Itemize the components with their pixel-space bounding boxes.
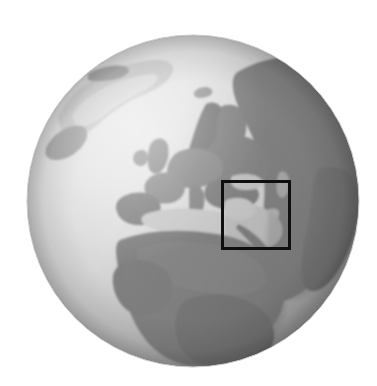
globe-figure: Grayscale globe of Earth centered on Eur… xyxy=(0,0,377,386)
globe-image xyxy=(0,0,377,386)
halftone-grain-overlay xyxy=(27,35,359,367)
